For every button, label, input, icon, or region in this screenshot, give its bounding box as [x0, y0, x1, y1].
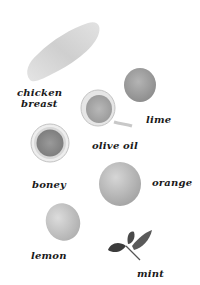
chicken-label-line1: chicken [17, 87, 62, 98]
orange-image [98, 160, 144, 208]
mint-image [106, 228, 156, 268]
honey-image [30, 123, 70, 163]
lemon-label: lemon [31, 250, 67, 261]
honey-label: boney [32, 179, 66, 190]
chicken-breast-label: chicken breast [17, 87, 62, 109]
chicken-breast-image [22, 18, 102, 84]
mint-label: mint [137, 268, 164, 279]
lime-label: lime [146, 114, 171, 125]
lemon-image [44, 202, 82, 242]
orange-label: orange [152, 177, 192, 188]
chicken-label-line2: breast [17, 98, 62, 109]
olive-oil-image [80, 88, 136, 130]
olive-oil-label: olive oil [92, 140, 138, 151]
